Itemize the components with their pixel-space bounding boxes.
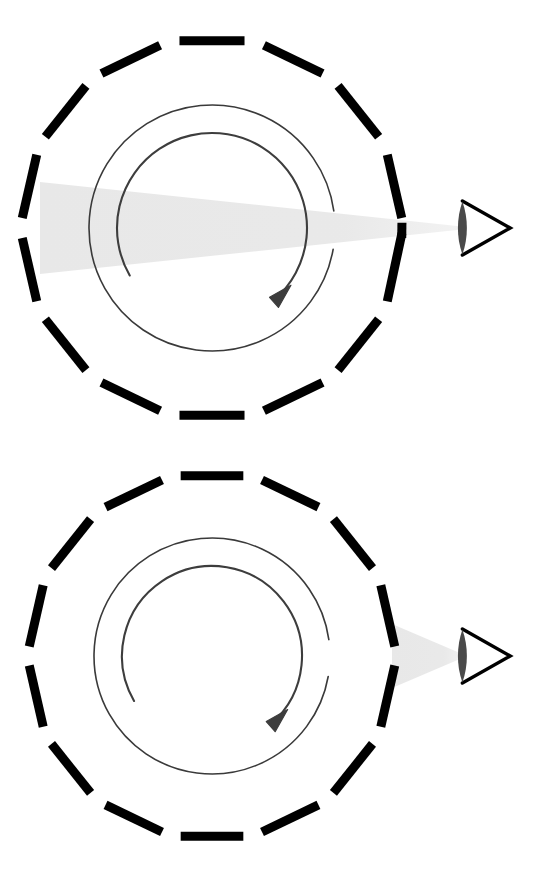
diagram-svg-top	[0, 0, 555, 440]
drum-segment	[29, 666, 43, 727]
drum-segment	[333, 519, 372, 568]
drum-segment	[22, 155, 36, 218]
rotation-path-arc	[94, 538, 329, 774]
rotation-arrow-head	[270, 285, 291, 307]
figure-stack	[0, 0, 555, 880]
drum-segment	[106, 805, 162, 832]
drum-segment	[106, 480, 162, 507]
eye-triangle-outline	[462, 201, 510, 255]
rotation-arrow-shaft	[122, 566, 302, 724]
drum-segment	[264, 383, 323, 411]
observer-eye-bottom	[458, 629, 510, 683]
drum-segments-bottom	[29, 476, 394, 837]
drum-segment	[45, 319, 86, 370]
rotation-arrow-head	[266, 709, 287, 731]
drum-segment	[387, 233, 402, 301]
light-beam-bottom	[392, 624, 464, 688]
drum-segment	[52, 519, 91, 568]
drum-segment	[381, 666, 395, 727]
drum-segment	[101, 383, 160, 411]
rotation-arrow-bottom	[122, 566, 302, 732]
drum-segment	[381, 585, 395, 646]
drum-segment	[29, 585, 43, 646]
drum-segment	[387, 155, 401, 218]
drum-segment	[333, 744, 372, 793]
figure-panel-bottom	[0, 440, 555, 880]
drum-segment	[338, 86, 379, 137]
drum-segment	[262, 805, 318, 832]
diagram-svg-bottom	[0, 440, 555, 880]
drum-segment	[338, 319, 379, 370]
drum-segment	[45, 86, 86, 137]
eye-pupil-lens	[458, 630, 467, 683]
drum-segment	[22, 238, 36, 301]
drum-segment	[101, 45, 160, 73]
eye-triangle-outline	[462, 629, 510, 683]
eye-pupil-lens	[458, 202, 467, 255]
drum-segment	[264, 45, 323, 73]
inner-rotation-circle-bottom	[94, 538, 329, 774]
observer-eye-top	[458, 201, 510, 255]
drum-segment	[52, 744, 91, 793]
light-cone-wedge	[392, 624, 464, 688]
drum-segment	[262, 480, 318, 507]
figure-panel-top	[0, 0, 555, 440]
